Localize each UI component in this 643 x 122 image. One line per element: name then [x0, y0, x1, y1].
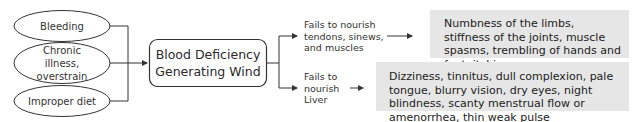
mechanism-label-tendons: Fails to nourish tendons, sinews, and mu… [304, 19, 388, 54]
cause-label: Improper diet [28, 95, 96, 108]
cause-label: Chronic illness, overstrain [26, 44, 98, 83]
mechanism-label-liver: Fails to nourish Liver [304, 71, 344, 106]
cause-improper-diet: Improper diet [14, 85, 110, 117]
cause-bleeding: Bleeding [14, 10, 110, 42]
central-label: Blood Deficiency Generating Wind [153, 46, 263, 80]
central-concept-box: Blood Deficiency Generating Wind [149, 39, 267, 87]
cause-chronic-illness: Chronic illness, overstrain [26, 42, 98, 84]
symptom-box-tendons: Numbness of the limbs, stiffness of the … [430, 10, 629, 58]
symptom-box-liver: Dizziness, tinnitus, dull complexion, pa… [376, 62, 629, 111]
cause-label: Bleeding [40, 20, 84, 33]
